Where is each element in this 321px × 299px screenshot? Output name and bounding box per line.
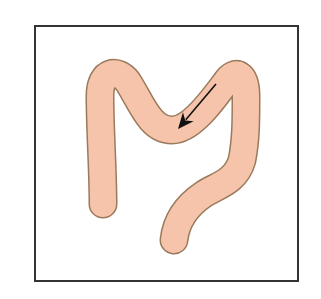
colon-tube: [100, 73, 246, 240]
colon-diagram: [0, 0, 321, 299]
